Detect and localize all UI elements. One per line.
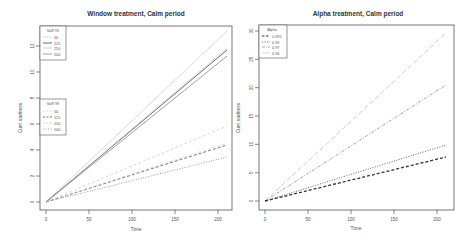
left-x-axis-label: Time xyxy=(131,226,142,232)
svg-text:0.99: 0.99 xyxy=(272,41,279,45)
left-series xyxy=(46,31,227,202)
svg-text:VaR 95: VaR 95 xyxy=(47,29,59,33)
series-var99-125 xyxy=(46,145,227,202)
svg-text:0.995: 0.995 xyxy=(272,35,282,39)
left-legend-var95: VaR 95 50 125 250 500 xyxy=(40,26,66,60)
svg-text:250: 250 xyxy=(54,47,60,51)
left-chart: Window treatment, Calm period 0 2 4 6 8 … xyxy=(17,10,232,232)
right-chart-title: Alpha treatment, Calm period xyxy=(313,10,404,18)
svg-text:100: 100 xyxy=(128,217,136,222)
right-chart: Alpha treatment, Calm period 0 5 10 15 2… xyxy=(235,10,454,231)
left-y-tick-labels: 0 2 4 6 8 10 12 xyxy=(30,43,35,203)
svg-text:5: 5 xyxy=(249,171,254,174)
svg-text:50: 50 xyxy=(86,217,92,222)
series-alpha-0.995 xyxy=(265,157,446,201)
series-var95-250 xyxy=(46,48,227,202)
svg-text:200: 200 xyxy=(433,217,441,222)
svg-text:50: 50 xyxy=(54,36,58,40)
svg-text:0: 0 xyxy=(30,200,35,203)
svg-text:0: 0 xyxy=(264,217,267,222)
svg-text:150: 150 xyxy=(171,217,179,222)
series-var95-500 xyxy=(46,56,227,202)
svg-text:250: 250 xyxy=(54,122,60,126)
svg-text:Alpha: Alpha xyxy=(267,28,278,32)
series-var95-50 xyxy=(46,31,227,202)
svg-text:0: 0 xyxy=(45,217,48,222)
svg-text:6: 6 xyxy=(30,122,35,125)
svg-text:50: 50 xyxy=(54,110,58,114)
svg-text:0: 0 xyxy=(249,199,254,202)
svg-text:20: 20 xyxy=(249,85,254,91)
svg-text:500: 500 xyxy=(54,53,60,57)
svg-text:0.97: 0.97 xyxy=(272,46,279,50)
right-series xyxy=(265,33,446,201)
right-x-ticks xyxy=(265,210,437,214)
svg-text:10: 10 xyxy=(249,141,254,147)
left-legend-var99: VaR 99 50 125 250 500 xyxy=(40,99,66,135)
svg-text:12: 12 xyxy=(30,43,35,49)
svg-text:15: 15 xyxy=(249,113,254,119)
svg-text:0.94: 0.94 xyxy=(272,52,279,56)
left-chart-title: Window treatment, Calm period xyxy=(87,10,184,18)
svg-text:100: 100 xyxy=(347,217,355,222)
right-y-ticks xyxy=(255,31,259,201)
right-legend-alpha: Alpha 0.995 0.99 0.97 0.94 xyxy=(259,25,287,58)
svg-text:VaR 99: VaR 99 xyxy=(47,102,59,106)
left-x-tick-labels: 0 50 100 150 200 xyxy=(45,217,223,222)
left-y-ticks xyxy=(36,46,40,202)
series-var99-250 xyxy=(46,143,227,202)
svg-text:125: 125 xyxy=(54,42,60,46)
svg-text:50: 50 xyxy=(305,217,311,222)
svg-text:500: 500 xyxy=(54,128,60,132)
svg-text:25: 25 xyxy=(249,56,254,62)
svg-text:150: 150 xyxy=(390,217,398,222)
right-y-tick-labels: 0 5 10 15 20 25 30 xyxy=(249,28,254,202)
svg-text:125: 125 xyxy=(54,116,60,120)
right-y-axis-label: Cum.sadness xyxy=(235,102,241,133)
left-x-ticks xyxy=(46,210,218,214)
series-alpha-0.97 xyxy=(265,85,446,201)
right-x-tick-labels: 0 50 100 150 200 xyxy=(264,217,442,222)
svg-text:200: 200 xyxy=(214,217,222,222)
series-alpha-0.99 xyxy=(265,145,446,201)
charts-canvas: Window treatment, Calm period 0 2 4 6 8 … xyxy=(0,0,471,242)
series-alpha-0.94 xyxy=(265,33,446,201)
left-y-axis-label: Cum.sadness xyxy=(17,102,23,133)
svg-text:10: 10 xyxy=(30,69,35,75)
svg-text:8: 8 xyxy=(30,96,35,99)
svg-text:4: 4 xyxy=(30,148,35,151)
right-x-axis-label: Time xyxy=(351,225,362,231)
svg-text:2: 2 xyxy=(30,174,35,177)
svg-text:30: 30 xyxy=(249,28,254,34)
figure: Window treatment, Calm period 0 2 4 6 8 … xyxy=(0,0,471,242)
